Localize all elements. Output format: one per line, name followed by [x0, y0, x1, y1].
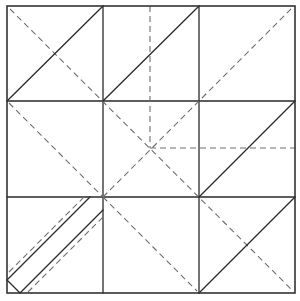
crease-pattern-diagram [0, 0, 300, 301]
